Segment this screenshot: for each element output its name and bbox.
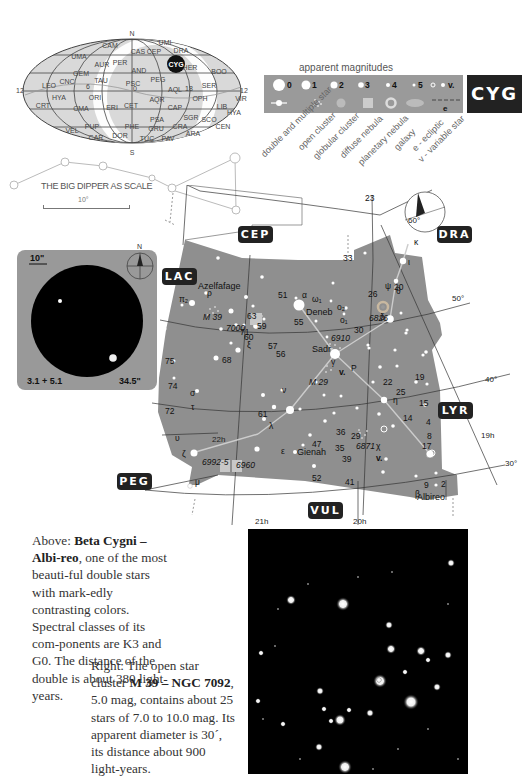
svg-text:26: 26 — [368, 289, 378, 299]
svg-text:9: 9 — [424, 480, 429, 490]
svg-text:CMA: CMA — [73, 105, 89, 112]
svg-text:δ: δ — [380, 312, 385, 322]
mag-variable: v. — [448, 80, 454, 90]
svg-text:ζ: ζ — [182, 449, 186, 459]
svg-text:PSA: PSA — [150, 116, 164, 123]
svg-text:M 29: M 29 — [309, 377, 328, 387]
neighbor-vul: VUL — [308, 502, 343, 519]
svg-text:30: 30 — [354, 325, 364, 335]
eyepiece-scale-label: 10" — [30, 253, 44, 263]
mag-3: 3 — [365, 80, 370, 90]
svg-text:SGR: SGR — [183, 114, 198, 121]
svg-text:χ: χ — [376, 441, 381, 451]
svg-text:61: 61 — [258, 409, 268, 419]
scale-bar — [43, 205, 130, 209]
svg-text:40°: 40° — [485, 375, 497, 384]
svg-text:6910: 6910 — [331, 333, 350, 343]
svg-text:20h: 20h — [353, 517, 366, 525]
svg-text:72: 72 — [165, 406, 175, 416]
svg-text:55: 55 — [294, 317, 304, 327]
svg-text:Azelfafage: Azelfafage — [198, 281, 241, 291]
svg-text:LIB: LIB — [217, 103, 228, 110]
svg-text:ξ: ξ — [247, 340, 251, 350]
svg-text:35: 35 — [335, 443, 345, 453]
svg-text:CRA: CRA — [173, 123, 188, 130]
svg-text:4: 4 — [426, 417, 431, 427]
neighbor-lac: LAC — [162, 268, 197, 285]
svg-text:22h: 22h — [212, 435, 225, 444]
neighbor-dra: DRA — [437, 226, 472, 243]
svg-text:36: 36 — [336, 427, 346, 437]
svg-text:17: 17 — [422, 441, 432, 451]
mag-1: 1 — [312, 80, 317, 90]
svg-text:PER: PER — [113, 59, 127, 66]
svg-text:ψ: ψ — [385, 281, 391, 291]
eyepiece-separation: 34.5" — [119, 376, 141, 386]
svg-text:ORI: ORI — [89, 94, 102, 101]
svg-text:12: 12 — [16, 87, 24, 94]
svg-text:33: 33 — [343, 253, 353, 263]
svg-text:74: 74 — [168, 381, 178, 391]
neighbor-cep: CEP — [238, 226, 273, 243]
svg-text:σ: σ — [190, 388, 196, 398]
svg-text:22: 22 — [383, 377, 393, 387]
svg-text:15: 15 — [419, 398, 429, 408]
svg-text:19: 19 — [415, 372, 425, 382]
svg-text:ERI: ERI — [106, 104, 118, 111]
legend-box: 0 1 2 3 4 5 v. e — [264, 75, 463, 113]
svg-text:UMA: UMA — [71, 53, 87, 60]
svg-text:PEG: PEG — [151, 76, 166, 83]
svg-text:CEN: CEN — [216, 123, 231, 130]
svg-text:29: 29 — [351, 431, 361, 441]
svg-text:AUR: AUR — [95, 61, 110, 68]
svg-text:AND: AND — [132, 67, 147, 74]
svg-text:v.: v. — [339, 367, 345, 377]
svg-text:6992-5: 6992-5 — [202, 457, 229, 467]
svg-text:M 39: M 39 — [203, 312, 222, 322]
ecliptic-symbol: e — [443, 104, 448, 113]
svg-text:GEM: GEM — [73, 70, 89, 77]
svg-text:UMI: UMI — [159, 39, 172, 46]
neighbor-peg: PEG — [117, 473, 152, 490]
svg-text:51: 51 — [278, 290, 288, 300]
svg-text:56: 56 — [276, 349, 286, 359]
svg-text:CRT: CRT — [36, 102, 51, 109]
svg-text:18: 18 — [185, 85, 193, 92]
svg-text:ρ: ρ — [207, 288, 212, 298]
svg-text:6826: 6826 — [369, 313, 388, 323]
neighbor-lyr: LYR — [438, 402, 473, 419]
svg-text:π₂: π₂ — [179, 294, 188, 304]
svg-text:v.: v. — [376, 453, 382, 463]
mag-4: 4 — [392, 80, 397, 90]
svg-text:19h: 19h — [481, 431, 494, 440]
m39-photo — [248, 529, 468, 774]
svg-text:CNC: CNC — [59, 78, 74, 85]
svg-text:HYA: HYA — [52, 94, 66, 101]
svg-text:CEP: CEP — [147, 48, 162, 55]
svg-text:AQR: AQR — [149, 96, 164, 104]
svg-text:Sadr: Sadr — [312, 344, 331, 354]
svg-text:DRA: DRA — [174, 47, 189, 54]
svg-text:BOO: BOO — [211, 68, 227, 75]
svg-text:6: 6 — [86, 83, 90, 90]
scale-title: THE BIG DIPPER AS SCALE — [41, 181, 152, 191]
mag-2: 2 — [339, 80, 344, 90]
svg-text:TAU: TAU — [94, 77, 107, 84]
eyepiece-view: 10" 3.1 + 5.1 34.5" — [17, 250, 157, 390]
svg-text:14: 14 — [403, 413, 413, 423]
svg-text:8: 8 — [427, 431, 432, 441]
svg-text:6871: 6871 — [356, 441, 375, 451]
svg-text:ο₁: ο₁ — [340, 315, 348, 325]
svg-text:59: 59 — [257, 321, 267, 331]
svg-text:N: N — [129, 30, 134, 37]
mag-0: 0 — [287, 80, 292, 90]
mag-5: 5 — [418, 80, 423, 90]
svg-text:CAM: CAM — [102, 42, 118, 49]
highlight-cyg: CYG — [168, 61, 184, 68]
svg-text:PUP: PUP — [85, 123, 100, 130]
svg-text:ε: ε — [281, 446, 285, 456]
svg-text:CET: CET — [124, 102, 139, 109]
svg-text:PSC: PSC — [126, 80, 140, 87]
svg-text:ARA: ARA — [186, 130, 201, 137]
legend-title: apparent magnitudes — [299, 62, 393, 73]
